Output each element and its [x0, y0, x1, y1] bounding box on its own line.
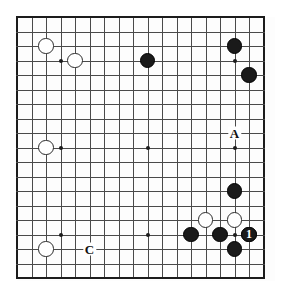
point-label-a: A	[228, 127, 241, 140]
grid-line-horizontal	[16, 177, 265, 178]
star-point	[59, 59, 63, 63]
star-point	[233, 233, 237, 237]
star-point	[233, 59, 237, 63]
star-point	[59, 146, 63, 150]
stone-black[interactable]: 1	[241, 227, 256, 242]
stone-black[interactable]	[212, 227, 227, 242]
stone-white[interactable]	[38, 38, 53, 53]
stone-move-number: 1	[242, 228, 255, 241]
stone-black[interactable]	[227, 241, 242, 256]
board-edge-horizontal	[16, 16, 265, 18]
stone-white[interactable]	[227, 212, 242, 227]
grid-line-horizontal	[16, 75, 265, 76]
go-board-diagram: 1 AC	[0, 0, 288, 297]
grid-line-horizontal	[16, 119, 265, 120]
star-point	[233, 146, 237, 150]
grid-line-horizontal	[16, 264, 265, 265]
stone-white[interactable]	[38, 140, 53, 155]
grid-line-horizontal	[16, 104, 265, 105]
stone-black[interactable]	[140, 53, 155, 68]
star-point	[146, 233, 150, 237]
stone-black[interactable]	[241, 67, 256, 82]
star-point	[146, 146, 150, 150]
point-label-c: C	[83, 243, 96, 256]
star-point	[59, 233, 63, 237]
stone-black[interactable]	[183, 227, 198, 242]
stone-black[interactable]	[227, 183, 242, 198]
grid-line-horizontal	[16, 32, 265, 33]
stone-black[interactable]	[227, 38, 242, 53]
stone-white[interactable]	[67, 53, 82, 68]
grid-line-horizontal	[16, 162, 265, 163]
stone-white[interactable]	[198, 212, 213, 227]
grid-line-horizontal	[16, 90, 265, 91]
board-edge-horizontal	[16, 277, 265, 279]
grid-line-horizontal	[16, 206, 265, 207]
stone-white[interactable]	[38, 241, 53, 256]
